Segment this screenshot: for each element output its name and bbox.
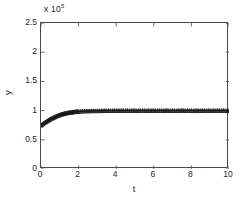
y-tick-label: 1.5 <box>25 76 37 84</box>
x-tick-label: 2 <box>75 170 80 179</box>
plot-canvas <box>41 23 229 169</box>
axis-ticks <box>41 23 229 169</box>
y-tick-label: 1 <box>32 106 37 114</box>
x-tick-label: 4 <box>113 170 118 179</box>
series-1 <box>41 108 229 127</box>
x-axis-ticklabels: 0246810 <box>0 170 241 184</box>
data-series-group <box>41 108 229 127</box>
y-axis-title: y <box>2 90 13 95</box>
y-axis-exponent-label: x 105 <box>44 4 64 14</box>
matlab-figure: x 105 00.511.522.5 0246810 t y <box>0 0 241 205</box>
x-tick-label: 0 <box>38 170 43 179</box>
x-tick-label: 10 <box>223 170 232 179</box>
x-tick-label: 8 <box>188 170 193 179</box>
y-tick-label: 2.5 <box>25 18 37 26</box>
exponent-power: 5 <box>61 3 65 9</box>
plot-area <box>40 22 228 168</box>
y-tick-label: 0.5 <box>25 135 37 143</box>
x-axis-title: t <box>133 184 136 194</box>
y-tick-label: 2 <box>32 47 37 55</box>
exponent-prefix: x 10 <box>44 4 61 14</box>
x-tick-label: 6 <box>150 170 155 179</box>
